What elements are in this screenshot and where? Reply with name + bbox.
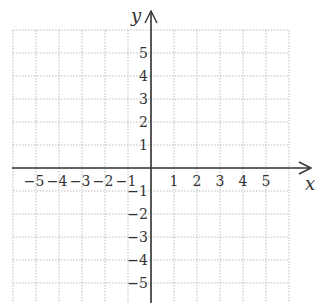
y-tick-label: −1 bbox=[127, 183, 148, 199]
x-tick-label: 2 bbox=[193, 173, 202, 189]
y-tick-label: −3 bbox=[127, 229, 148, 245]
x-tick-label: 1 bbox=[170, 173, 179, 189]
coordinate-plane: x y −5−4−3−2−112345 54321−1−2−3−4−5 bbox=[0, 0, 320, 305]
y-axis-label: y bbox=[130, 5, 142, 26]
y-tick-label: 4 bbox=[139, 68, 148, 84]
y-tick-label: 2 bbox=[139, 114, 148, 130]
x-axis-label: x bbox=[305, 173, 315, 194]
x-tick-label: 5 bbox=[262, 173, 271, 189]
x-tick-label: −2 bbox=[93, 173, 114, 189]
x-tick-label: −3 bbox=[70, 173, 91, 189]
x-tick-label: 3 bbox=[216, 173, 225, 189]
y-tick-label: 5 bbox=[139, 45, 148, 61]
x-tick-label: 4 bbox=[239, 173, 248, 189]
y-tick-label: −5 bbox=[127, 275, 148, 291]
x-tick-label: −5 bbox=[24, 173, 45, 189]
x-tick-label: −4 bbox=[47, 173, 68, 189]
y-tick-label: −4 bbox=[127, 252, 148, 268]
y-tick-label: 1 bbox=[139, 137, 148, 153]
y-tick-label: −2 bbox=[127, 206, 148, 222]
y-tick-label: 3 bbox=[139, 91, 148, 107]
